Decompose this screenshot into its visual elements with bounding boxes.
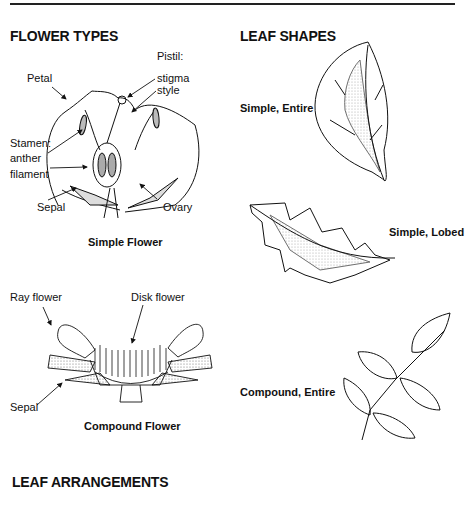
label-stigma: stigma bbox=[157, 72, 189, 84]
simple-flower-diagram bbox=[47, 91, 199, 218]
leaf-simple-entire bbox=[315, 42, 388, 181]
label-sepal-compound: Sepal bbox=[10, 401, 38, 413]
botany-illustrations bbox=[0, 0, 469, 507]
leaf-simple-lobed bbox=[250, 203, 395, 283]
section-title-leaf-shapes: LEAF SHAPES bbox=[240, 28, 336, 44]
label-compound-entire: Compound, Entire bbox=[240, 386, 335, 398]
label-simple-entire: Simple, Entire bbox=[240, 102, 313, 114]
caption-compound-flower: Compound Flower bbox=[84, 420, 181, 432]
section-title-flower-types: FLOWER TYPES bbox=[10, 28, 118, 44]
label-petal: Petal bbox=[27, 72, 52, 84]
label-ovary: Ovary bbox=[163, 201, 192, 213]
label-pistil: Pistil: bbox=[157, 50, 183, 62]
caption-simple-flower: Simple Flower bbox=[88, 236, 163, 248]
label-disk-flower: Disk flower bbox=[131, 291, 185, 303]
simple-flower-arrows bbox=[48, 79, 157, 200]
leaf-compound-entire bbox=[344, 313, 450, 440]
label-style: style bbox=[157, 84, 180, 96]
section-title-leaf-arrangements: LEAF ARRANGEMENTS bbox=[12, 474, 168, 490]
label-stamen: Stamen: bbox=[10, 137, 51, 149]
label-sepal: Sepal bbox=[37, 201, 65, 213]
label-simple-lobed: Simple, Lobed bbox=[389, 226, 464, 238]
compound-flower-diagram bbox=[48, 324, 212, 402]
label-filament: filament bbox=[10, 168, 49, 180]
label-anther: anther bbox=[10, 152, 41, 164]
label-ray-flower: Ray flower bbox=[10, 291, 62, 303]
